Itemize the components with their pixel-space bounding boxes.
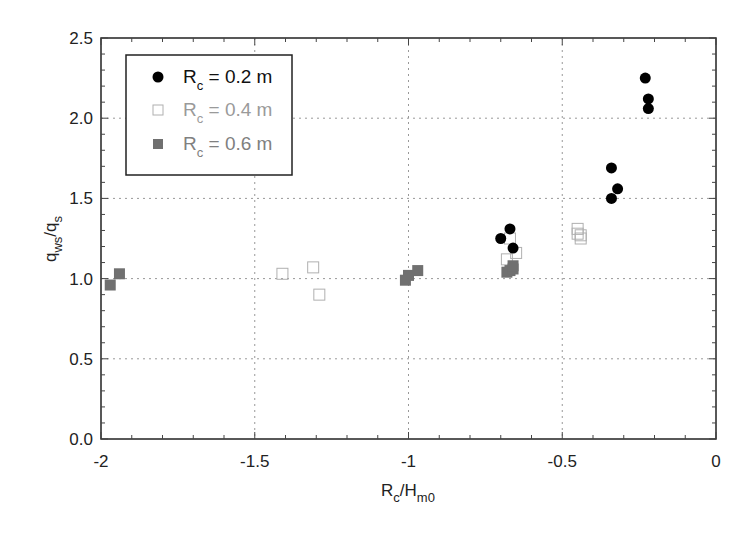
data-point xyxy=(508,260,519,271)
data-point xyxy=(606,162,617,173)
y-tick-labels: 0.00.51.01.52.02.5 xyxy=(69,29,93,449)
data-point xyxy=(412,265,423,276)
legend: Rc = 0.2 m Rc = 0.4 m Rc = 0.6 m xyxy=(126,55,292,175)
y-axis-title: qws/qs xyxy=(41,215,65,262)
data-point xyxy=(640,73,651,84)
data-point xyxy=(643,93,654,104)
y-tick-label: 1.5 xyxy=(69,189,93,208)
data-point xyxy=(105,280,116,291)
x-tick-label: 0 xyxy=(711,452,720,471)
filled-circle-marker-icon xyxy=(153,72,164,83)
y-tick-label: 0.0 xyxy=(69,430,93,449)
data-point xyxy=(495,233,506,244)
x-tick-label: -0.5 xyxy=(548,452,577,471)
data-point xyxy=(308,262,319,273)
scatter-chart: -2-1.5-1-0.50 0.00.51.01.52.02.5 Rc/Hm0 … xyxy=(0,0,756,533)
data-point xyxy=(314,289,325,300)
y-tick-label: 2.5 xyxy=(69,29,93,48)
x-tick-label: -1.5 xyxy=(240,452,269,471)
y-tick-label: 1.0 xyxy=(69,270,93,289)
x-tick-label: -1 xyxy=(401,452,416,471)
data-point xyxy=(114,268,125,279)
x-tick-labels: -2-1.5-1-0.50 xyxy=(93,452,720,471)
data-point xyxy=(643,103,654,114)
filled-square-marker-icon xyxy=(153,139,163,149)
x-axis-title: Rc/Hm0 xyxy=(381,481,435,505)
data-point xyxy=(504,223,515,234)
y-tick-label: 0.5 xyxy=(69,350,93,369)
x-tick-label: -2 xyxy=(93,452,108,471)
y-tick-label: 2.0 xyxy=(69,109,93,128)
data-point xyxy=(612,183,623,194)
data-point xyxy=(277,268,288,279)
data-point xyxy=(508,243,519,254)
data-point xyxy=(606,193,617,204)
